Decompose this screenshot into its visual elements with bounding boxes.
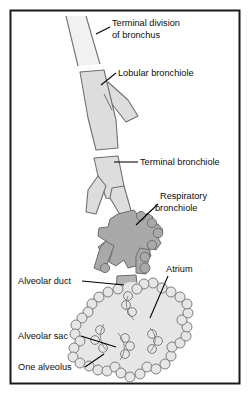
label-terminal-division-of-bronchus-line2: of bronchus bbox=[112, 30, 160, 40]
label-lobular-bronchiole-line1: Lobular bronchiole bbox=[118, 68, 194, 78]
label-alveolar-duct: Alveolar duct bbox=[18, 276, 72, 286]
one-alveolus-shape bbox=[166, 351, 176, 361]
one-alveolus-shape bbox=[132, 284, 142, 294]
one-alveolus-shape bbox=[183, 308, 193, 318]
respiratory-bronchiole-bud bbox=[100, 263, 109, 272]
respiratory-bronchiole-bud bbox=[140, 252, 150, 262]
one-alveolus-shape bbox=[166, 287, 176, 297]
respiratory-bronchiole-bud bbox=[136, 211, 145, 220]
one-alveolus-shape bbox=[151, 364, 161, 374]
label-alveolar-sac-line1: Alveolar sac bbox=[18, 331, 68, 341]
respiratory-bronchiole-bud bbox=[147, 218, 156, 227]
one-alveolus-shape bbox=[116, 368, 126, 378]
one-alveolus-shape bbox=[142, 362, 152, 372]
label-alveolar-sac: Alveolar sac bbox=[18, 331, 68, 341]
respiratory-lobule-figure: Terminal division of bronchus Lobular br… bbox=[0, 0, 250, 394]
label-one-alveolus-line1: One alveolus bbox=[18, 362, 72, 372]
one-alveolus-shape bbox=[148, 278, 158, 288]
one-alveolus-shape bbox=[93, 365, 103, 375]
label-respiratory-bronchiole-line1: Respiratory bbox=[160, 191, 207, 201]
label-atrium-line1: Atrium bbox=[166, 264, 193, 274]
one-alveolus-shape bbox=[103, 287, 113, 297]
one-alveolus-shape bbox=[181, 331, 191, 341]
one-alveolus-shape bbox=[175, 292, 185, 302]
one-alveolus-shape bbox=[126, 342, 135, 351]
one-alveolus-shape bbox=[128, 308, 137, 317]
one-alveolus-shape bbox=[113, 284, 123, 294]
respiratory-bronchiole-bud bbox=[153, 228, 163, 238]
label-respiratory-bronchiole-line2: bronchiole bbox=[155, 203, 197, 213]
one-alveolus-shape bbox=[71, 320, 81, 330]
label-terminal-bronchiole-line1: Terminal bronchiole bbox=[140, 157, 220, 167]
label-alveolar-duct-line1: Alveolar duct bbox=[18, 276, 72, 286]
label-one-alveolus: One alveolus bbox=[18, 362, 72, 372]
label-lobular-bronchiole: Lobular bronchiole bbox=[118, 68, 194, 78]
label-terminal-division-of-bronchus-line1: Terminal division bbox=[112, 18, 180, 28]
one-alveolus-shape bbox=[96, 326, 105, 335]
one-alveolus-shape bbox=[125, 372, 135, 382]
respiratory-bronchiole-bud bbox=[140, 263, 150, 273]
label-terminal-bronchiole: Terminal bronchiole bbox=[140, 157, 220, 167]
respiratory-bronchiole-bud bbox=[147, 240, 156, 249]
one-alveolus-shape bbox=[157, 283, 167, 293]
diagram-canvas: Terminal division of bronchus Lobular br… bbox=[0, 0, 250, 394]
label-atrium: Atrium bbox=[166, 264, 193, 274]
one-alveolus-shape bbox=[69, 343, 79, 353]
one-alveolus-shape bbox=[75, 358, 85, 368]
